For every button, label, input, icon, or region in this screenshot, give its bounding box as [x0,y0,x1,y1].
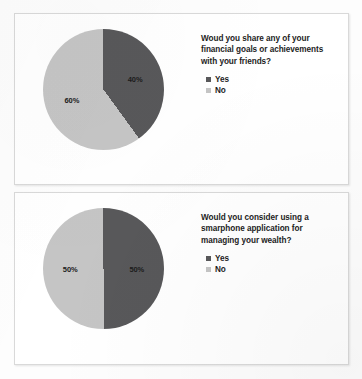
pie-chart-2: 50% 50% [43,208,164,329]
legend-swatch-icon [206,267,211,272]
legend-label: No [215,86,226,95]
legend-item-yes[interactable]: Yes [201,254,333,263]
legend-swatch-icon [206,256,211,261]
chart-question: Would you consider using a smarphone app… [201,212,333,246]
pie-slice-label-no: 50% [63,264,78,273]
legend-item-yes[interactable]: Yes [201,75,333,84]
chart-panel-1: 40% 60% Woud you share any of your finan… [14,13,349,185]
legend-item-no[interactable]: No [201,265,333,274]
legend-swatch-icon [206,88,211,93]
legend-block-2: Would you consider using a smarphone app… [201,212,333,276]
pie-chart-1: 40% 60% [43,29,164,150]
legend-swatch-icon [206,77,211,82]
chart-body-2: 50% 50% Would you consider using a smarp… [15,193,348,364]
pie-graphic [43,29,164,150]
pie-slice-label-yes: 50% [129,264,144,273]
legend-list: Yes No [201,254,333,274]
legend-label: Yes [215,254,229,263]
legend-label: Yes [215,75,229,84]
legend-item-no[interactable]: No [201,86,333,95]
legend-block-1: Woud you share any of your financial goa… [201,33,333,97]
chart-question: Woud you share any of your financial goa… [201,33,333,67]
legend-list: Yes No [201,75,333,95]
pie-slice-label-yes: 40% [128,75,143,84]
pie-graphic [43,208,164,329]
legend-label: No [215,265,226,274]
pie-slice-label-no: 60% [64,95,79,104]
chart-body-1: 40% 60% Woud you share any of your finan… [15,14,348,184]
chart-panel-2: 50% 50% Would you consider using a smarp… [14,192,349,365]
